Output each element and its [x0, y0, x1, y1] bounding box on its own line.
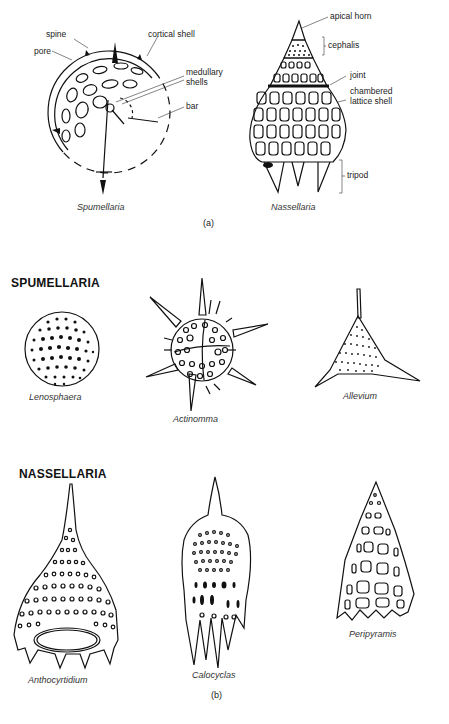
caption-peripyramis: Peripyramis: [349, 630, 397, 639]
panel-b-label: (b): [211, 691, 222, 700]
peripyramis-drawing: [0, 0, 449, 724]
